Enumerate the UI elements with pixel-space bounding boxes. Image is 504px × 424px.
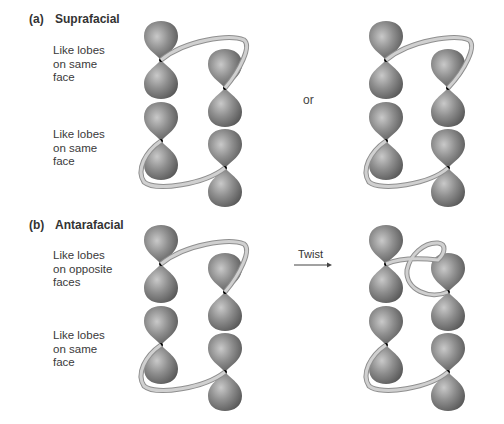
orbital-diagram (0, 0, 504, 424)
